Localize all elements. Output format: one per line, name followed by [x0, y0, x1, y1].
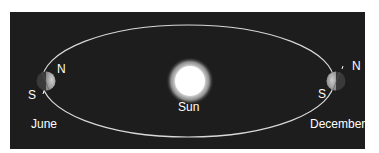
june-north-label: N — [57, 63, 66, 75]
sun-label: Sun — [178, 101, 199, 113]
december-south-label: S — [318, 88, 326, 100]
sun-icon — [175, 66, 205, 96]
earth-june-icon — [37, 72, 56, 95]
december-label: December — [310, 118, 365, 130]
december-north-label: N — [352, 60, 361, 72]
earth-december-icon — [327, 66, 346, 91]
june-south-label: S — [28, 89, 36, 101]
june-label: June — [31, 118, 57, 130]
